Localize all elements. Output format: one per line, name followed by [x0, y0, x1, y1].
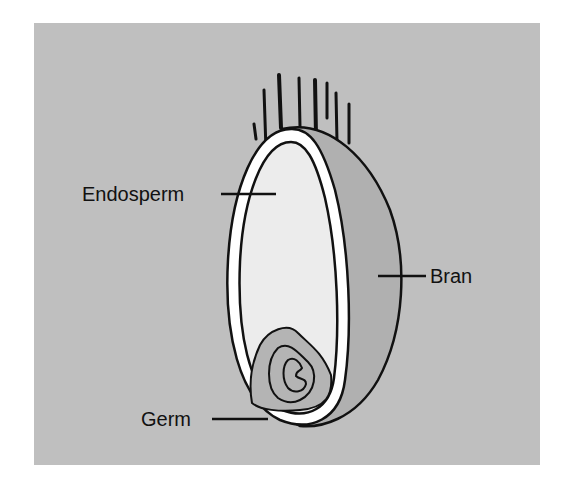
germ-label: Germ	[141, 409, 191, 429]
endosperm-label: Endosperm	[82, 184, 184, 204]
grain-kernel-diagram	[0, 0, 563, 478]
bran-label: Bran	[430, 266, 472, 286]
